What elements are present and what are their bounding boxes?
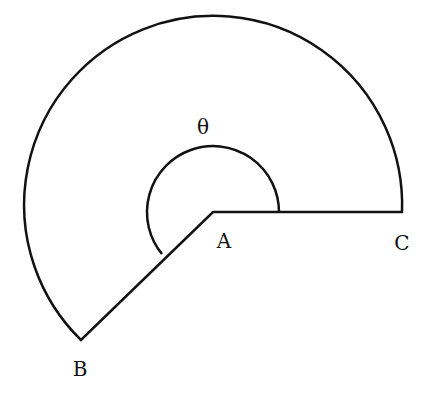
point-label-c: C bbox=[394, 231, 409, 255]
point-label-b: B bbox=[73, 357, 88, 381]
sector-outline bbox=[24, 16, 402, 340]
vertex-label-a: A bbox=[216, 229, 232, 253]
sector-diagram: θ A C B bbox=[0, 0, 428, 397]
angle-arc bbox=[147, 146, 279, 254]
angle-label-theta: θ bbox=[197, 115, 209, 139]
